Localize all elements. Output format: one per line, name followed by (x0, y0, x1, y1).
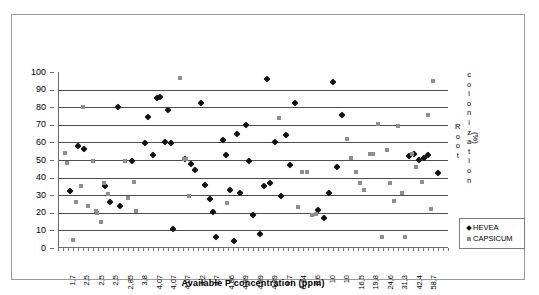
data-point-capsicum (380, 235, 384, 239)
data-point-hevea (320, 215, 327, 222)
y-axis-line (58, 72, 59, 248)
gridline (58, 178, 448, 179)
data-point-hevea (272, 139, 279, 146)
legend[interactable]: HEVEA CAPSICUM (459, 218, 525, 249)
data-point-hevea (243, 121, 250, 128)
data-point-capsicum (178, 76, 182, 80)
data-point-hevea (201, 181, 208, 188)
data-point-hevea (292, 99, 299, 106)
data-point-capsicum (358, 181, 362, 185)
x-axis-title: Available P concentration (ppm) (58, 278, 448, 288)
y-tick-mark (50, 142, 54, 143)
y-axis-title-char: c (467, 70, 471, 80)
data-point-capsicum (91, 159, 95, 163)
data-point-capsicum (225, 201, 229, 205)
data-point-hevea (425, 151, 432, 158)
gridline (58, 90, 448, 91)
data-point-capsicum (414, 165, 418, 169)
data-point-hevea (144, 114, 151, 121)
data-point-capsicum (99, 220, 103, 224)
data-point-capsicum (63, 151, 67, 155)
y-tick-label: 60 (36, 138, 46, 147)
y-axis-title-char: o (467, 166, 471, 176)
data-point-hevea (66, 187, 73, 194)
gridline (58, 125, 448, 126)
y-tick-mark (50, 125, 54, 126)
y-tick-mark (50, 107, 54, 108)
data-point-hevea (80, 145, 87, 152)
data-point-capsicum (106, 192, 110, 196)
data-point-capsicum (403, 235, 407, 239)
y-tick-mark (50, 160, 54, 161)
data-point-capsicum (126, 196, 130, 200)
data-point-capsicum (71, 238, 75, 242)
data-point-hevea (287, 162, 294, 169)
data-point-capsicum (300, 170, 304, 174)
data-point-hevea (207, 196, 214, 203)
y-axis-title-char: l (468, 89, 470, 99)
y-axis-title-char: o (456, 132, 460, 142)
data-point-capsicum (420, 180, 424, 184)
y-tick-mark (50, 72, 54, 73)
y-tick-mark (50, 90, 54, 91)
y-axis-title-char: t (468, 147, 470, 157)
data-point-capsicum (74, 200, 78, 204)
data-point-capsicum (296, 205, 300, 209)
data-point-capsicum (349, 156, 353, 160)
data-point-hevea (338, 112, 345, 119)
x-axis-ticks: 1,72,52,52,52,853,84,074,074,074,24,74,8… (58, 251, 448, 277)
data-point-capsicum (388, 181, 392, 185)
data-point-hevea (141, 140, 148, 147)
data-point-capsicum (184, 157, 188, 161)
y-axis-title-char: n (467, 176, 471, 186)
y-tick-mark (50, 248, 54, 249)
gridline (58, 230, 448, 231)
y-tick-label: 100 (31, 68, 46, 77)
y-axis-title-char: o (467, 80, 471, 90)
chart-frame: 1009080706050403020100 1,72,52,52,52,853… (11, 14, 525, 280)
data-point-capsicum (392, 199, 396, 203)
y-axis-title-char: t (457, 151, 459, 161)
legend-item-capsicum[interactable]: CAPSICUM (464, 233, 521, 244)
data-point-hevea (114, 104, 121, 111)
data-point-capsicum (376, 122, 380, 126)
data-point-capsicum (371, 152, 375, 156)
data-point-capsicum (410, 152, 414, 156)
square-marker-icon (464, 237, 473, 241)
data-point-capsicum (354, 170, 358, 174)
data-point-hevea (230, 237, 237, 244)
y-axis-title: Root colonization (%) (455, 70, 495, 220)
data-point-hevea (192, 166, 199, 173)
y-axis-title-char: o (467, 99, 471, 109)
y-tick-mark (50, 195, 54, 196)
data-point-capsicum (429, 207, 433, 211)
data-point-hevea (129, 158, 136, 165)
y-tick-mark (50, 213, 54, 214)
data-point-hevea (210, 208, 217, 215)
data-point-capsicum (277, 116, 281, 120)
data-point-capsicum (95, 211, 99, 215)
data-point-hevea (106, 199, 113, 206)
data-point-capsicum (314, 212, 318, 216)
data-point-hevea (167, 140, 174, 147)
y-tick-label: 90 (36, 85, 46, 94)
data-point-capsicum (400, 191, 404, 195)
y-tick-label: 10 (36, 226, 46, 235)
data-point-capsicum (86, 204, 90, 208)
x-minor-tick (448, 248, 449, 251)
y-tick-label: 0 (41, 244, 46, 253)
data-point-capsicum (362, 188, 366, 192)
gridline (58, 160, 448, 161)
data-point-hevea (226, 187, 233, 194)
data-point-capsicum (187, 194, 191, 198)
y-tick-label: 80 (36, 103, 46, 112)
data-point-capsicum (305, 170, 309, 174)
y-tick-label: 30 (36, 191, 46, 200)
data-point-capsicum (426, 113, 430, 117)
data-point-hevea (197, 100, 204, 107)
data-point-hevea (233, 130, 240, 137)
legend-item-hevea[interactable]: HEVEA (464, 222, 521, 233)
y-axis-title-char: i (468, 118, 470, 128)
data-point-hevea (277, 192, 284, 199)
data-point-capsicum (134, 209, 138, 213)
